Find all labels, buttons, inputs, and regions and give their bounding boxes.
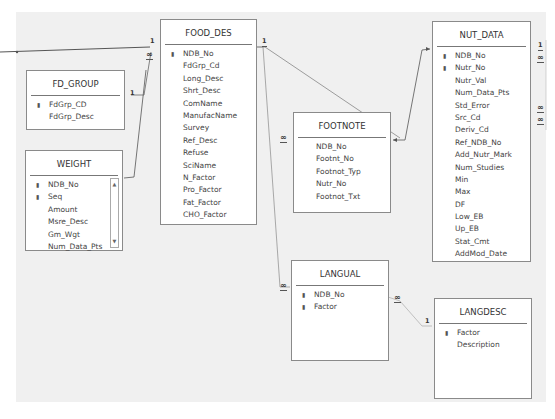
field-name: N_Factor <box>183 173 215 182</box>
field-row[interactable]: Shrt_Desc <box>161 85 256 97</box>
field-name: FdGrp_Desc <box>49 112 94 121</box>
field-row[interactable]: Num_Studies <box>433 162 530 174</box>
field-name: ManufacName <box>183 111 237 120</box>
primary-key-icon: ▮ <box>36 179 39 191</box>
field-name: Long_Desc <box>183 74 223 83</box>
field-name: NDB_No <box>455 51 485 60</box>
field-row[interactable]: Description <box>435 339 531 351</box>
field-name: NDB_No <box>316 142 346 151</box>
table-langdesc[interactable]: LANGDESC ▮FactorDescription <box>434 298 532 399</box>
cardinality-one: 1 <box>130 90 135 97</box>
field-row[interactable]: ▮Factor <box>435 327 531 339</box>
field-row[interactable]: Num_Data_Pts <box>433 87 530 99</box>
field-name: Num_Studies <box>455 163 504 172</box>
table-fd-group[interactable]: FD_GROUP ▮FdGrp_CDFdGrp_Desc <box>26 70 125 130</box>
field-name: Refuse <box>183 148 208 157</box>
field-name: Ref_Desc <box>183 136 217 145</box>
field-name: NDB_No <box>48 180 78 189</box>
field-name: Deriv_Cd <box>455 125 489 134</box>
field-row[interactable]: Num_Data_Pts <box>26 241 122 253</box>
field-name: Src_Cd <box>455 113 481 122</box>
field-name: Survey <box>183 123 209 132</box>
field-name: ComName <box>183 99 222 108</box>
field-name: AddMod_Date <box>455 249 507 258</box>
field-name: Ref_NDB_No <box>455 138 501 147</box>
field-name: FdGrp_CD <box>49 100 87 109</box>
field-row[interactable]: Deriv_Cd <box>433 124 530 136</box>
field-row[interactable]: Footnot_Txt <box>294 191 390 203</box>
field-name: Low_EB <box>455 212 483 221</box>
cardinality-many: ∞ <box>537 54 544 63</box>
scroll-down-icon[interactable]: ▼ <box>111 237 118 246</box>
primary-key-icon: ▮ <box>443 50 446 62</box>
field-row[interactable]: Min <box>433 174 530 186</box>
field-name: Stat_Cmt <box>455 237 489 246</box>
field-row[interactable]: Src_Cd <box>433 112 530 124</box>
field-row[interactable]: ▮NDB_No <box>161 48 256 60</box>
field-row[interactable]: Footnt_No <box>294 153 390 165</box>
field-row[interactable]: Nutr_No <box>294 178 390 190</box>
field-row[interactable]: SciName <box>161 160 256 172</box>
table-title: FOOD_DES <box>165 20 252 45</box>
field-row[interactable]: Footnot_Typ <box>294 166 390 178</box>
field-row[interactable]: FdGrp_Cd <box>161 60 256 72</box>
table-nut-data[interactable]: NUT_DATA ▮NDB_No▮Nutr_NoNutr_ValNum_Data… <box>432 21 531 262</box>
field-row[interactable]: Ref_NDB_No <box>433 137 530 149</box>
field-row[interactable]: ▮NDB_No <box>433 50 530 62</box>
field-row[interactable]: Msre_Desc <box>26 216 122 228</box>
cardinality-many: ∞ <box>394 294 401 303</box>
field-row[interactable]: ▮FdGrp_CD <box>27 99 124 111</box>
field-row[interactable]: NDB_No <box>294 141 390 153</box>
field-row[interactable]: Survey <box>161 122 256 134</box>
primary-key-icon: ▮ <box>171 48 174 60</box>
field-row[interactable]: Gm_Wgt <box>26 229 122 241</box>
field-row[interactable]: ▮Seq <box>26 191 122 203</box>
scrollbar[interactable]: ▲ ▼ <box>110 178 119 248</box>
field-name: Footnot_Typ <box>316 167 361 176</box>
table-langual[interactable]: LANGUAL ▮NDB_No▮Factor <box>291 260 389 361</box>
field-name: NDB_No <box>314 290 344 299</box>
field-row[interactable]: Up_EB <box>433 223 530 235</box>
field-row[interactable]: Max <box>433 186 530 198</box>
field-row[interactable]: ▮NDB_No <box>26 179 122 191</box>
field-name: Shrt_Desc <box>183 86 221 95</box>
field-name: Add_Nutr_Mark <box>455 150 512 159</box>
table-footnote[interactable]: FOOTNOTE NDB_NoFootnt_NoFootnot_TypNutr_… <box>293 112 391 213</box>
field-name: Factor <box>457 328 480 337</box>
field-name: SciName <box>183 161 216 170</box>
field-row[interactable]: ManufacName <box>161 110 256 122</box>
field-row[interactable]: Pro_Factor <box>161 184 256 196</box>
field-name: Msre_Desc <box>48 217 88 226</box>
cardinality-one: 1 <box>150 38 155 45</box>
field-row[interactable]: Stat_Cmt <box>433 236 530 248</box>
field-row[interactable]: Fat_Factor <box>161 197 256 209</box>
field-row[interactable]: ▮NDB_No <box>292 289 388 301</box>
field-row[interactable]: N_Factor <box>161 172 256 184</box>
field-name: Gm_Wgt <box>48 230 80 239</box>
field-row[interactable]: Low_EB <box>433 211 530 223</box>
table-weight[interactable]: WEIGHT ▮NDB_No▮SeqAmountMsre_DescGm_WgtN… <box>25 150 123 251</box>
field-row[interactable]: ▮Factor <box>292 301 388 313</box>
field-row[interactable]: ComName <box>161 98 256 110</box>
primary-key-icon: ▮ <box>443 62 446 74</box>
table-title: LANGDESC <box>439 299 527 324</box>
cardinality-one: 1 <box>538 42 543 51</box>
field-row[interactable]: Nutr_Val <box>433 75 530 87</box>
field-row[interactable]: FdGrp_Desc <box>27 111 124 123</box>
field-row[interactable]: Amount <box>26 204 122 216</box>
field-name: Min <box>455 175 468 184</box>
field-row[interactable]: Add_Nutr_Mark <box>433 149 530 161</box>
field-row[interactable]: Ref_Desc <box>161 135 256 147</box>
field-row[interactable]: CHO_Factor <box>161 209 256 221</box>
table-food-des[interactable]: FOOD_DES ▮NDB_NoFdGrp_CdLong_DescShrt_De… <box>160 19 257 225</box>
field-name: Footnot_Txt <box>316 192 360 201</box>
field-row[interactable]: Long_Desc <box>161 73 256 85</box>
field-row[interactable]: ▮Nutr_No <box>433 62 530 74</box>
field-row[interactable]: Refuse <box>161 147 256 159</box>
field-row[interactable]: Std_Error <box>433 100 530 112</box>
field-name: Max <box>455 187 471 196</box>
field-row[interactable]: DF <box>433 199 530 211</box>
primary-key-icon: ▮ <box>36 191 39 203</box>
field-row[interactable]: AddMod_Date <box>433 248 530 260</box>
scroll-up-icon[interactable]: ▲ <box>111 180 118 189</box>
